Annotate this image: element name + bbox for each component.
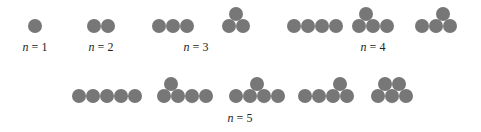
coin-circle	[315, 19, 329, 33]
coin-circle	[243, 89, 257, 103]
coin-circle	[87, 19, 101, 33]
coin-circle	[250, 77, 264, 91]
coin-circle	[128, 89, 142, 103]
group-label-n2: n = 2	[89, 40, 114, 54]
coin-circle	[72, 89, 86, 103]
coin-circle	[333, 77, 347, 91]
coin-circle	[436, 7, 450, 21]
coin-circle	[100, 89, 114, 103]
group-label-n1: n = 1	[23, 40, 48, 54]
group-label-n4: n = 4	[361, 40, 386, 54]
coin-circle	[114, 89, 128, 103]
coin-circle	[340, 89, 354, 103]
coin-circle	[199, 89, 213, 103]
coin-circle	[222, 19, 236, 33]
coin-circle	[257, 89, 271, 103]
coin-circle	[312, 89, 326, 103]
coin-circle	[378, 77, 392, 91]
coin-circle	[352, 19, 366, 33]
coin-circle	[366, 19, 380, 33]
coin-circle	[229, 89, 243, 103]
coin-circle	[298, 89, 312, 103]
coin-circle	[359, 7, 373, 21]
group-label-n3: n = 3	[184, 40, 209, 54]
coin-circle	[185, 89, 199, 103]
coin-circle	[385, 89, 399, 103]
coin-circle	[236, 19, 250, 33]
coin-circle	[101, 19, 115, 33]
coin-circle	[301, 19, 315, 33]
coin-circle	[399, 89, 413, 103]
coin-circle	[28, 19, 42, 33]
coin-circle	[429, 19, 443, 33]
coin-circle	[164, 77, 178, 91]
coin-circle	[392, 77, 406, 91]
coin-circle	[152, 19, 166, 33]
coin-circle	[157, 89, 171, 103]
coin-arrangements-diagram: n = 1n = 2n = 3n = 4n = 5	[0, 0, 481, 132]
coin-circle	[371, 89, 385, 103]
coin-circle	[271, 89, 285, 103]
coin-circle	[380, 19, 394, 33]
coin-circle	[326, 89, 340, 103]
coin-circle	[86, 89, 100, 103]
coin-circle	[415, 19, 429, 33]
coin-circle	[329, 19, 343, 33]
coin-circle	[171, 89, 185, 103]
coin-circle	[443, 19, 457, 33]
coin-circle	[180, 19, 194, 33]
group-label-n5: n = 5	[228, 111, 253, 125]
coin-circle	[166, 19, 180, 33]
coin-circle	[287, 19, 301, 33]
coin-circle	[229, 7, 243, 21]
